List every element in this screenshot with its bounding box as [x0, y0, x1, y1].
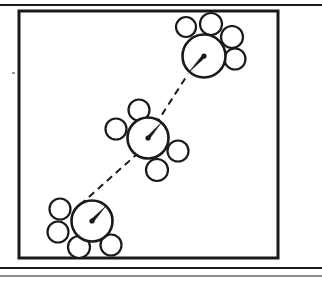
satellite-circle [146, 159, 168, 181]
satellite-circle [176, 17, 196, 37]
cluster-centre-dot [201, 53, 206, 58]
satellite-circle [50, 199, 71, 220]
satellite-circle [221, 26, 243, 48]
figure-root: Three clusters, each a large circle with… [0, 0, 322, 282]
cluster-diagram [0, 0, 322, 282]
stray-mark [12, 72, 15, 74]
cluster-centre-dot [89, 218, 94, 223]
cluster-centre-dot [145, 135, 150, 140]
stray-marks-layer [12, 72, 15, 74]
satellite-circle [225, 49, 246, 70]
satellite-circle [168, 141, 189, 162]
satellite-circle [200, 13, 222, 35]
satellite-circle [106, 119, 127, 140]
satellite-circle [48, 222, 69, 243]
